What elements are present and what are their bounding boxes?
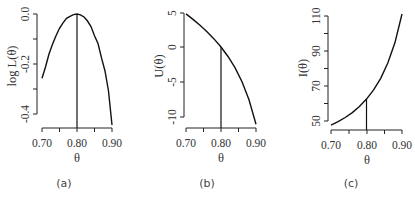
panel-a-ytick-label: -0.4 <box>19 105 31 123</box>
panel-b-ytick-label: 5 <box>166 10 178 16</box>
panel-c-information: 50 70 90 110 I(θ) 0.70 0.80 0.90 θ (c) <box>296 7 412 190</box>
panel-a-ytick-label: -0.2 <box>19 55 31 73</box>
panel-a-xtick-label: 0.80 <box>67 137 87 149</box>
panel-c-xtick-label: 0.90 <box>392 139 412 151</box>
panel-c-xlabel: θ <box>364 153 370 167</box>
panel-a-xlabel: θ <box>74 151 80 165</box>
panel-c-caption: (c) <box>344 177 359 190</box>
panel-c-xtick-label: 0.80 <box>357 139 377 151</box>
panel-b-ytick-label: -10 <box>166 109 178 125</box>
panel-c-ytick-label: 110 <box>310 7 322 24</box>
figure: 0.0 -0.2 -0.4 log L(θ) 0.70 0.80 0.90 θ … <box>0 0 415 197</box>
panel-b-xlabel: θ <box>218 151 224 165</box>
panel-c-ytick-label: 70 <box>310 80 322 92</box>
panel-b-ytick-label: 0 <box>166 44 178 50</box>
panel-c-ytick-label: 50 <box>310 115 322 127</box>
panel-a-caption: (a) <box>56 177 71 190</box>
panel-a-ytick-label: 0.0 <box>19 7 31 22</box>
panel-b-xtick-label: 0.70 <box>176 137 196 149</box>
panel-b-ylabel: U(θ) <box>152 54 166 77</box>
panel-b-score: 5 0 -5 -10 U(θ) 0.70 0.80 0.90 θ (b) <box>152 10 266 190</box>
panel-c-ylabel: I(θ) <box>296 59 310 77</box>
panel-a-xtick-label: 0.90 <box>102 137 122 149</box>
panel-b-ytick-label: -5 <box>166 77 178 87</box>
panel-b-xtick-label: 0.80 <box>211 137 231 149</box>
panel-c-xtick-label: 0.70 <box>321 139 341 151</box>
panel-c-ytick-label: 90 <box>310 45 322 57</box>
panel-a-log-likelihood: 0.0 -0.2 -0.4 log L(θ) 0.70 0.80 0.90 θ … <box>5 7 122 190</box>
panel-a-xtick-label: 0.70 <box>32 137 52 149</box>
panel-b-xtick-label: 0.90 <box>246 137 266 149</box>
panel-b-caption: (b) <box>199 177 215 190</box>
panel-a-ylabel: log L(θ) <box>5 45 19 86</box>
